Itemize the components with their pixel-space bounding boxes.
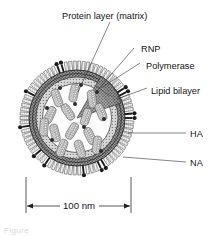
- na-spike-head: [42, 163, 46, 167]
- rnp-bead: [45, 121, 48, 124]
- polymerase-dot: [50, 138, 54, 142]
- rnp-bead: [93, 102, 96, 105]
- label-lipid-bilayer: Lipid bilayer: [151, 86, 200, 96]
- figure-caption-fragment: Figure: [4, 226, 29, 235]
- rnp-bead: [44, 128, 47, 131]
- polymerase-dot: [102, 117, 106, 121]
- polymerase-dot: [45, 106, 49, 110]
- polymerase-dot: [99, 149, 103, 153]
- rnp-bead: [44, 126, 47, 129]
- virus-diagram: Protein layer (matrix) RNP Polymerase Li…: [0, 0, 223, 236]
- scale-bar-label: 100 nm: [63, 200, 95, 211]
- na-spike-head: [124, 85, 128, 89]
- na-spike-head: [18, 125, 22, 129]
- rnp-bead: [44, 131, 47, 134]
- polymerase-dot: [73, 102, 77, 106]
- rnp-bead: [45, 119, 48, 122]
- scale-arrow-left: [27, 203, 33, 208]
- na-spike-head: [132, 111, 136, 115]
- polymerase-dot: [58, 86, 62, 90]
- na-spike-head: [104, 166, 108, 170]
- na-spike-head: [54, 62, 58, 66]
- rnp-bead: [44, 124, 47, 127]
- polymerase-dot: [82, 125, 86, 129]
- na-spike-head: [100, 168, 104, 172]
- na-spike-head: [24, 89, 28, 93]
- na-spike-head: [82, 173, 86, 177]
- label-rnp: RNP: [141, 44, 160, 54]
- scale-arrow-right: [124, 203, 130, 208]
- na-spike-head: [59, 61, 63, 65]
- label-ha: HA: [190, 129, 204, 139]
- na-spike-head: [32, 154, 36, 158]
- label-na: NA: [190, 158, 204, 168]
- scale-bar: 100 nm: [26, 177, 131, 213]
- na-spike-head: [126, 89, 130, 93]
- figure-container: Protein layer (matrix) RNP Polymerase Li…: [0, 0, 223, 236]
- rnp-bead: [96, 149, 99, 152]
- label-protein-layer: Protein layer (matrix): [62, 11, 147, 21]
- leader-na: [123, 157, 186, 162]
- label-polymerase: Polymerase: [146, 61, 195, 71]
- na-spike-head: [133, 116, 137, 120]
- rnp-segment: [39, 118, 49, 137]
